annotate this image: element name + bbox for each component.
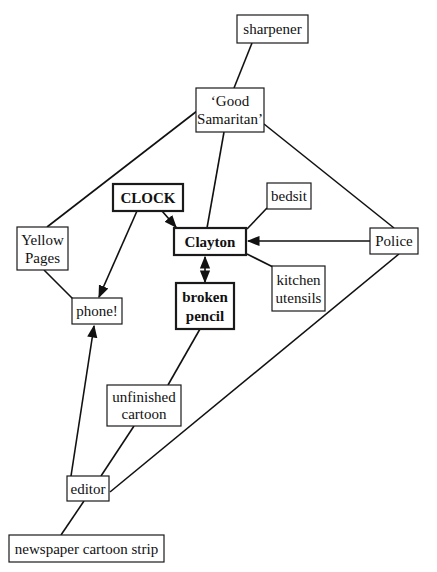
edge-good-samaritan-police (264, 124, 394, 228)
edge-sharpener-good-samaritan (234, 43, 252, 88)
node-sharpener: sharpener (237, 15, 308, 43)
node-label-line-2: pencil (186, 308, 224, 324)
node-label: phone! (76, 303, 118, 319)
edge-editor-newspaper-cartoon-strip (61, 501, 84, 535)
node-label-line-2: cartoon (122, 406, 167, 422)
concept-map-diagram: sharpener ‘Good Samaritan’ CLOCK bedsit … (0, 0, 437, 572)
node-yellow-pages: Yellow Pages (17, 227, 68, 270)
edge-editor-phone (71, 326, 94, 476)
node-label: sharpener (243, 21, 301, 37)
node-label-line-1: broken (182, 289, 228, 305)
node-label-line-1: unfinished (112, 389, 176, 405)
node-label-line-2: utensils (276, 290, 322, 306)
node-clayton: Clayton (174, 228, 246, 255)
node-label: newspaper cartoon strip (15, 541, 158, 557)
node-label-line-2: Pages (25, 250, 60, 266)
edge-police-editor (110, 254, 399, 492)
edge-good-samaritan-clayton (207, 132, 224, 228)
node-broken-pencil: broken pencil (176, 283, 234, 329)
node-label-line-1: kitchen (276, 272, 321, 288)
node-editor: editor (67, 476, 109, 501)
edge-unfinished-cartoon-editor (101, 426, 134, 476)
node-label-line-1: Yellow (21, 232, 64, 248)
node-phone: phone! (72, 298, 122, 324)
edge-clock-clayton (162, 211, 176, 227)
node-newspaper-cartoon-strip: newspaper cartoon strip (9, 535, 164, 562)
node-unfinished-cartoon: unfinished cartoon (107, 385, 181, 426)
node-label-line-1: ‘Good (211, 93, 250, 109)
node-label: Police (375, 233, 413, 249)
node-clock: CLOCK (113, 184, 183, 211)
node-label: bedsit (271, 188, 308, 204)
node-label: CLOCK (120, 190, 175, 206)
node-bedsit: bedsit (267, 183, 311, 209)
node-police: Police (370, 228, 418, 254)
node-label: editor (71, 481, 106, 497)
node-label-line-2: Samaritan’ (197, 111, 263, 127)
node-label: Clayton (185, 234, 236, 250)
edge-broken-pencil-unfinished-cartoon (168, 329, 200, 385)
edge-bedsit-clayton (247, 208, 267, 229)
edge-clock-phone (99, 211, 137, 297)
edge-kitchen-utensils-clayton (247, 254, 273, 267)
node-kitchen-utensils: kitchen utensils (272, 266, 325, 311)
edge-yellow-pages-phone (44, 270, 73, 299)
node-good-samaritan: ‘Good Samaritan’ (196, 88, 264, 132)
